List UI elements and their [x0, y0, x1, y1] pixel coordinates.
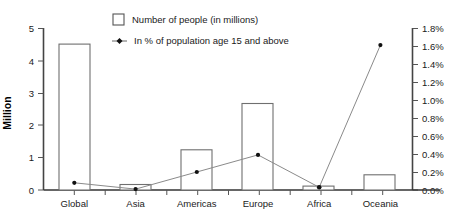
right-tick-label-0-4: 0.4% [422, 149, 444, 160]
marker-oceania [378, 43, 382, 47]
right-tick-label-1-4: 1.4% [422, 59, 444, 70]
x-axis [44, 190, 441, 195]
category-label-asia: Asia [126, 198, 145, 209]
bar-oceania [364, 175, 395, 190]
marker-africa [317, 185, 322, 190]
bar-europe [242, 104, 273, 191]
percentage-line-series [72, 43, 382, 191]
category-label-global: Global [61, 198, 88, 209]
left-tick-label-3: 3 [29, 88, 34, 99]
marker-asia [134, 187, 138, 191]
category-label-europe: Europe [243, 198, 274, 209]
left-tick-label-4: 4 [29, 56, 34, 67]
category-label-oceania: Oceania [363, 198, 399, 209]
right-tick-label-1-8: 1.8% [422, 23, 444, 34]
bar-global [59, 44, 90, 190]
left-tick-label-0: 0 [29, 185, 34, 196]
left-y-axis: 5 4 3 2 1 0 Million [1, 23, 44, 196]
bar-series [59, 44, 395, 190]
marker-americas [195, 170, 199, 174]
legend-swatch-bars [113, 14, 124, 25]
left-tick-label-1: 1 [29, 152, 34, 163]
legend-marker-dot-icon [117, 38, 123, 44]
right-tick-label-1-6: 1.6% [422, 41, 444, 52]
chart-canvas: Number of people (in millions) In % of p… [0, 0, 463, 219]
marker-europe [256, 153, 260, 157]
category-label-americas: Americas [177, 198, 217, 209]
category-labels: Global Asia Americas Europe Africa Ocean… [61, 198, 399, 209]
right-tick-label-0-6: 0.6% [422, 131, 444, 142]
bar-americas [181, 150, 212, 190]
y-axis-title: Million [1, 96, 13, 129]
right-y-axis: 1.8% 1.6% 1.4% 1.2% 1.0% 0.8% 0.6% 0.4% … [413, 23, 445, 196]
legend-label-bars: Number of people (in millions) [132, 14, 258, 25]
chart-container: Number of people (in millions) In % of p… [0, 0, 463, 219]
left-tick-label-2: 2 [29, 120, 34, 131]
chart-legend: Number of people (in millions) In % of p… [112, 14, 289, 46]
percentage-line-path [74, 45, 380, 189]
right-tick-label-0-2: 0.2% [422, 167, 444, 178]
legend-label-line: In % of population age 15 and above [134, 35, 289, 46]
right-tick-label-0-8: 0.8% [422, 113, 444, 124]
category-label-africa: Africa [307, 198, 332, 209]
left-tick-label-5: 5 [29, 23, 34, 34]
marker-global [72, 181, 76, 185]
right-tick-label-1-0: 1.0% [422, 95, 444, 106]
right-tick-label-1-2: 1.2% [422, 77, 444, 88]
